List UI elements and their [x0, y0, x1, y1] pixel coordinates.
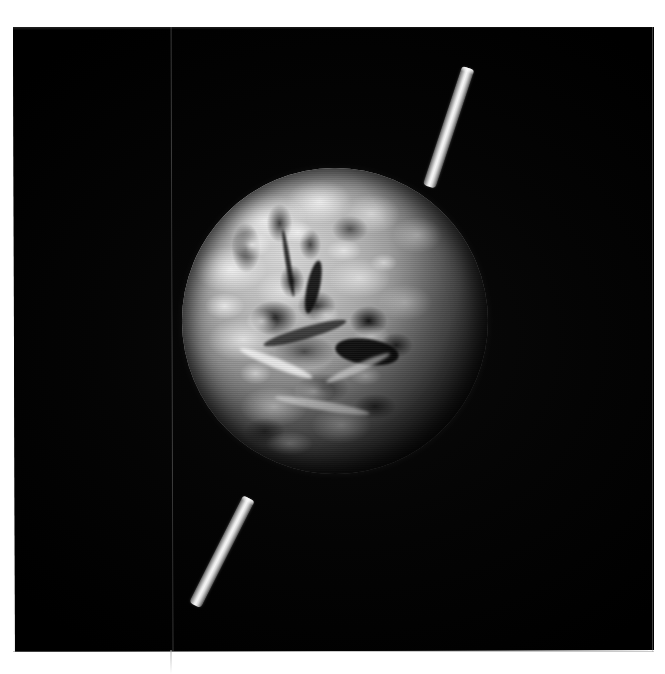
- paper-margin-right: [654, 0, 665, 674]
- fold-seam-bottom-margin: [170, 650, 172, 674]
- plate-edge-line-right: [652, 27, 653, 652]
- page-canvas: [0, 0, 665, 674]
- globe-limb-darkening: [181, 168, 488, 475]
- globe-sphere: [181, 168, 488, 475]
- paper-margin-left: [0, 0, 13, 674]
- paper-margin-bottom: [0, 652, 665, 674]
- photograph-plate: [13, 25, 656, 652]
- plate-edge-line-bottom: [13, 651, 654, 652]
- paper-margin-top: [0, 0, 665, 27]
- globe: [181, 168, 488, 475]
